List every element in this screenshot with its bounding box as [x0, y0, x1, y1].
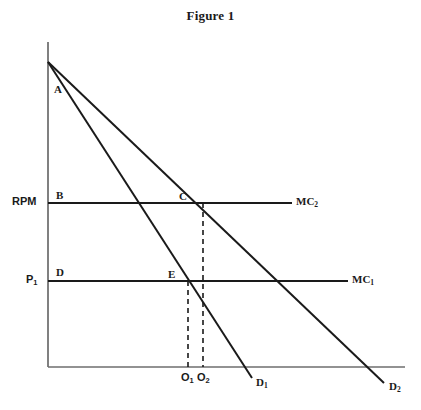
- point-label-c: C: [179, 191, 187, 202]
- curve-mc2-main: MC: [296, 195, 314, 207]
- price-level-p1-sub: 1: [33, 278, 37, 287]
- point-label-e: E: [168, 269, 175, 280]
- point-label-b: B: [56, 190, 63, 201]
- price-level-rpm-label: RPM: [12, 196, 36, 207]
- quantity-mark-o2-main: O: [197, 371, 206, 383]
- curve-mc1-main: MC: [352, 273, 370, 285]
- quantity-mark-o1-sub: 1: [190, 376, 194, 385]
- curve-d1-line: [48, 62, 252, 378]
- point-label-d: D: [56, 267, 64, 278]
- curve-d1-main: D: [256, 376, 264, 388]
- curve-d2-main: D: [389, 380, 397, 392]
- point-label-a: A: [54, 84, 62, 95]
- curve-d1-label: D1: [256, 377, 268, 388]
- figure-container: Figure 1 RPM P1 A B C D E MC2 MC1 D1 D2 …: [0, 0, 421, 410]
- curve-mc1-label: MC1: [352, 274, 374, 285]
- curve-mc1-sub: 1: [370, 278, 374, 287]
- curve-mc2-sub: 2: [314, 200, 318, 209]
- curve-d2-label: D2: [389, 381, 401, 392]
- price-level-p1-label: P1: [26, 274, 38, 285]
- diagram-canvas: [0, 0, 421, 410]
- quantity-mark-o1-main: O: [181, 371, 190, 383]
- quantity-mark-o2-label: O2: [197, 372, 210, 383]
- curve-d2-line: [48, 62, 384, 383]
- curve-mc2-label: MC2: [296, 196, 318, 207]
- curve-d2-sub: 2: [397, 385, 401, 394]
- quantity-mark-o1-label: O1: [181, 372, 194, 383]
- quantity-mark-o2-sub: 2: [206, 376, 210, 385]
- curve-d1-sub: 1: [264, 381, 268, 390]
